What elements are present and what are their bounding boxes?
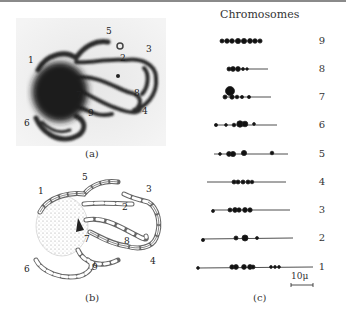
chromosome-label-8: 8 bbox=[316, 63, 328, 74]
chromosome-label-1: 1 bbox=[316, 261, 328, 272]
chromosome-label-5: 5 bbox=[316, 148, 328, 159]
label-5: 5 bbox=[82, 172, 88, 182]
chromosome-label-7: 7 bbox=[316, 91, 328, 102]
label-8: 8 bbox=[134, 88, 140, 98]
chromosome-7 bbox=[223, 87, 271, 100]
drawing-panel-b: 1 5 2 3 7 8 4 9 6 bbox=[22, 172, 170, 284]
chromosome-label-9: 9 bbox=[316, 35, 328, 46]
chromosome-8 bbox=[227, 67, 268, 72]
label-1: 1 bbox=[38, 186, 44, 196]
chromosome-idiogram bbox=[190, 0, 330, 323]
chromosome-2 bbox=[201, 235, 293, 242]
label-4: 4 bbox=[150, 256, 156, 266]
label-6: 6 bbox=[24, 118, 30, 128]
scale-bar bbox=[291, 283, 313, 287]
label-4: 4 bbox=[142, 106, 148, 116]
label-1: 1 bbox=[28, 55, 34, 65]
label-2: 2 bbox=[122, 202, 128, 212]
chromosome-1 bbox=[197, 265, 313, 270]
chromosome-3 bbox=[212, 208, 291, 213]
chromosome-label-2: 2 bbox=[316, 232, 328, 243]
label-5: 5 bbox=[106, 26, 112, 36]
chromosome-6 bbox=[214, 121, 277, 127]
chromosome-4 bbox=[207, 180, 286, 184]
label-3: 3 bbox=[146, 184, 152, 194]
caption-b: (b) bbox=[85, 292, 99, 303]
label-6: 6 bbox=[24, 264, 30, 274]
caption-c: (c) bbox=[253, 292, 266, 303]
chromosome-5 bbox=[214, 150, 288, 156]
label-9: 9 bbox=[92, 262, 98, 272]
chromosome-label-6: 6 bbox=[316, 119, 328, 130]
chromosome-label-4: 4 bbox=[316, 176, 328, 187]
caption-a: (a) bbox=[85, 148, 99, 159]
label-9: 9 bbox=[88, 108, 94, 118]
label-3: 3 bbox=[146, 44, 152, 54]
chromosome-label-3: 3 bbox=[316, 204, 328, 215]
label-2: 2 bbox=[120, 53, 126, 63]
chromosome-9 bbox=[220, 38, 262, 43]
scale-bar-label: 10μ bbox=[291, 271, 308, 281]
label-7: 7 bbox=[76, 90, 82, 100]
label-7: 7 bbox=[84, 234, 90, 244]
micrograph-panel-a: 1 5 2 3 7 8 4 9 6 bbox=[16, 18, 166, 146]
label-8: 8 bbox=[124, 236, 130, 246]
